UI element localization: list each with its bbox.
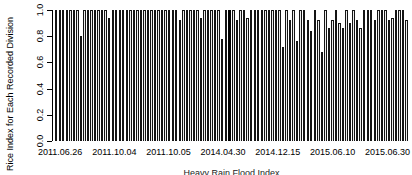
y-tick-label: 0.0 — [35, 135, 45, 148]
bar — [299, 10, 301, 141]
bar — [94, 10, 96, 141]
bar — [147, 10, 149, 141]
bar — [257, 10, 259, 141]
bar — [172, 10, 174, 141]
bar — [402, 10, 404, 141]
y-tick — [47, 89, 52, 90]
bar — [236, 20, 238, 141]
bar — [381, 10, 383, 141]
bar — [398, 10, 400, 141]
bar — [150, 10, 152, 141]
bar — [395, 10, 397, 141]
bar — [104, 10, 106, 141]
bar — [303, 10, 305, 141]
bar — [203, 10, 205, 141]
bar — [97, 10, 99, 141]
bar — [405, 20, 407, 141]
bar — [55, 10, 57, 141]
bar — [182, 10, 184, 141]
x-tick-label: 2011.06.26 — [38, 147, 82, 157]
bar — [133, 10, 135, 141]
bar — [62, 10, 64, 141]
bar — [83, 10, 85, 141]
highlighted-bar — [228, 10, 231, 141]
bar — [112, 10, 114, 141]
bar — [200, 18, 202, 141]
bar — [115, 10, 117, 141]
bar — [108, 18, 110, 141]
bar — [314, 10, 316, 141]
bar — [225, 10, 227, 141]
bar — [129, 10, 131, 141]
bar — [328, 28, 330, 141]
bar — [154, 10, 156, 141]
bar — [207, 10, 209, 141]
y-tick — [47, 36, 52, 37]
bar — [126, 10, 128, 141]
bar — [66, 10, 68, 141]
bar — [296, 41, 298, 141]
bar — [285, 10, 287, 141]
bar — [193, 10, 195, 141]
bar — [359, 28, 361, 141]
bar — [157, 10, 159, 141]
bar — [292, 10, 294, 141]
bar — [80, 36, 82, 141]
bar — [140, 10, 142, 141]
y-tick-label: 0.8 — [35, 30, 45, 43]
bar — [370, 10, 372, 141]
bar — [282, 47, 284, 141]
bar — [76, 10, 78, 141]
bar — [352, 10, 354, 141]
bar — [342, 28, 344, 141]
bar — [331, 20, 333, 141]
y-tick — [47, 115, 52, 116]
bar — [356, 20, 358, 141]
x-axis-title: Heavy Rain Flood Index — [55, 168, 408, 175]
r-barplot-figure: { "chart_data": { "type": "bar", "title"… — [0, 0, 412, 175]
y-axis-line — [52, 10, 53, 141]
bar — [221, 39, 223, 141]
bar — [164, 10, 166, 141]
bar — [232, 10, 234, 141]
bar — [345, 10, 347, 141]
bar — [374, 20, 376, 141]
bar — [367, 10, 369, 141]
bar — [119, 10, 121, 141]
bar — [196, 10, 198, 141]
bar — [168, 10, 170, 141]
y-tick — [47, 10, 52, 11]
bar — [69, 10, 71, 141]
x-tick-label: 2011.10.05 — [146, 147, 190, 157]
bar — [278, 10, 280, 141]
bar — [349, 23, 351, 141]
bar — [254, 10, 256, 141]
bar — [268, 10, 270, 141]
bar — [136, 10, 138, 141]
y-tick-label: 0.2 — [35, 109, 45, 122]
bar — [289, 20, 291, 141]
bar — [250, 10, 252, 141]
bar — [363, 10, 365, 141]
y-tick-label: 0.4 — [35, 82, 45, 95]
bar — [189, 10, 191, 141]
bar — [317, 20, 319, 141]
bar — [243, 10, 245, 141]
bar — [335, 10, 337, 141]
bar — [271, 10, 273, 141]
y-tick — [47, 141, 52, 142]
bar — [161, 10, 163, 141]
bar — [214, 10, 216, 141]
x-tick-label: 2015.06.10 — [310, 147, 355, 157]
y-tick-label: 1.0 — [35, 4, 45, 17]
y-axis-title: Rice Index for Each Recorded Division — [5, 17, 15, 171]
bar-plot — [55, 10, 408, 141]
bar — [186, 10, 188, 141]
bar — [391, 18, 393, 141]
bar — [175, 10, 177, 141]
bar — [321, 52, 323, 141]
bar — [210, 10, 212, 141]
bar — [239, 10, 241, 141]
bar — [388, 20, 390, 141]
bar — [324, 10, 326, 141]
